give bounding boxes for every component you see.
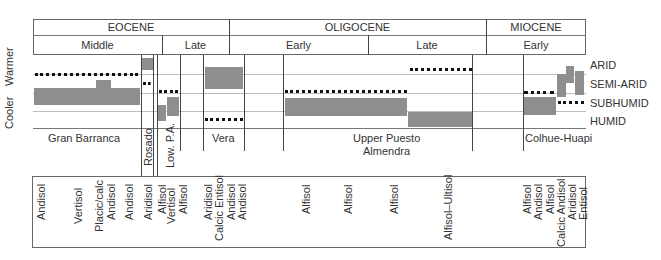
- soil-label: Placic/calc: [94, 180, 105, 232]
- temp-bar-colhue-1: [524, 97, 556, 115]
- subepoch-oligocene-late: Late: [368, 35, 486, 55]
- soil-label: Aridisol: [143, 184, 154, 220]
- plot-bottom-line: [33, 128, 586, 129]
- moisture-line-lowpa: [159, 90, 178, 93]
- temp-bar-colhue-3: [566, 66, 574, 83]
- soil-label: Entisol: [578, 187, 589, 220]
- soil-label: Alfisol: [389, 185, 400, 214]
- soil-label: Andisol: [106, 184, 117, 220]
- soil-label: Andisol: [124, 184, 135, 220]
- divider-upa-left: [283, 55, 284, 151]
- soil-label: Alfisol: [178, 185, 189, 214]
- moisture-line-rosado: [143, 82, 151, 85]
- epoch-miocene: MIOCENE: [486, 19, 586, 35]
- epoch-oligocene: OLIGOCENE: [229, 19, 486, 35]
- moisture-line-colhue-1: [524, 91, 554, 94]
- soil-label: Andisol: [36, 184, 47, 220]
- formation-upa-line2: Almendra: [363, 145, 410, 157]
- subepoch-oligocene-early: Early: [229, 35, 368, 55]
- moisture-label-subhumid: SUBHUMID: [590, 97, 649, 109]
- temp-bar-gran-barranca: [34, 88, 140, 105]
- moisture-label-arid: ARID: [590, 59, 616, 71]
- y-label-warmer: Warmer: [3, 47, 15, 86]
- soil-label: Vertisol: [73, 188, 84, 224]
- formation-rosado: Rosado: [142, 128, 154, 166]
- formation-colhue-huapi: Colhue-Huapi: [525, 132, 592, 144]
- moisture-label-semi-arid: SEMI-ARID: [590, 78, 647, 90]
- subepoch-eocene-late: Late: [162, 35, 229, 55]
- formation-gran-barranca: Gran Barranca: [48, 132, 120, 144]
- temp-bar-upa-late: [408, 112, 472, 127]
- temp-bar-colhue-2: [557, 74, 566, 97]
- soil-label: Alfisol: [343, 185, 354, 214]
- divider-vera-left: [203, 55, 204, 151]
- temp-bar-vera: [205, 67, 243, 89]
- moisture-line-gran-barranca: [35, 73, 138, 76]
- soil-label: Alfisol–Ultisol: [443, 175, 454, 240]
- divider-lowpa-right: [180, 55, 181, 151]
- soil-label: Andisol: [533, 184, 544, 220]
- temp-bar-upa-early: [285, 98, 407, 116]
- formation-upa-line1: Upper Puesto: [353, 132, 420, 144]
- temp-bar-gran-barranca-step: [96, 80, 111, 89]
- soil-label: Andisol: [237, 184, 248, 220]
- subepoch-eocene-middle: Middle: [33, 35, 162, 55]
- temp-bar-lowpa-2: [167, 97, 179, 116]
- soil-label: Vertisol: [166, 188, 177, 224]
- moisture-line-colhue-2: [558, 101, 584, 104]
- divider-upa-right: [472, 55, 473, 151]
- divider-vera-right: [244, 55, 245, 151]
- temp-bar-lowpa-1: [158, 105, 166, 121]
- epoch-eocene: EOCENE: [33, 19, 229, 35]
- moisture-line-upa-late: [410, 68, 472, 71]
- soil-label: Calcic Entisol: [214, 175, 225, 241]
- moisture-label-humid: HUMID: [590, 115, 626, 127]
- y-label-cooler: Cooler: [3, 97, 15, 129]
- subepoch-miocene-early: Early: [486, 35, 586, 55]
- temp-bar-colhue-4: [575, 71, 584, 95]
- temp-bar-rosado: [142, 58, 153, 70]
- formation-low-pa: Low. P.A.: [164, 123, 176, 168]
- soil-label: Alfisol: [301, 185, 312, 214]
- formation-vera: Vera: [212, 132, 235, 144]
- moisture-line-upa-early: [285, 90, 407, 93]
- moisture-line-vera: [205, 118, 243, 121]
